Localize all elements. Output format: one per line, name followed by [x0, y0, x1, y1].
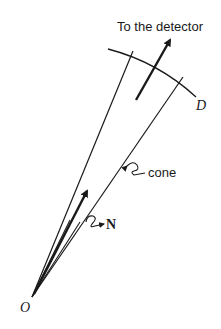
origin-label: O — [20, 300, 30, 315]
vertex-line-2 — [32, 222, 80, 297]
surface-label: D — [195, 98, 206, 113]
normal-vector-arrow — [34, 191, 87, 294]
detector-direction-arrow — [136, 40, 170, 100]
cone-pointer-squiggle — [127, 163, 145, 175]
cone-left-edge — [32, 51, 133, 297]
vertex-line-1 — [32, 220, 70, 297]
normal-label: N — [106, 217, 116, 232]
detector-label: To the detector — [117, 19, 204, 34]
cone-right-edge — [32, 77, 183, 297]
cone-label: cone — [148, 165, 176, 180]
cone-diagram: To the detector D cone N O — [0, 0, 221, 329]
normal-pointer-squiggle — [86, 216, 104, 227]
